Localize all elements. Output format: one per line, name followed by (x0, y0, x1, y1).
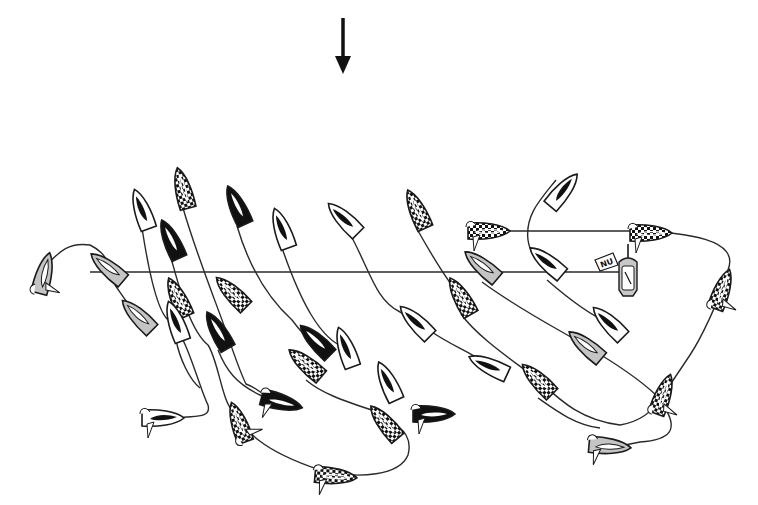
boat-track (538, 398, 600, 428)
boat-white (331, 325, 361, 370)
boat-checker (466, 221, 510, 251)
boat-white (371, 359, 404, 404)
boat-white (127, 187, 157, 232)
boat-checker (400, 187, 433, 232)
boat-checker (628, 223, 672, 253)
boat-white (588, 302, 629, 343)
flag-icon: NU (595, 253, 618, 271)
boat-white (525, 242, 568, 282)
boat-gray (29, 250, 69, 300)
boat-white (544, 169, 584, 212)
boat-checker (169, 166, 196, 211)
race-diagram: NU (0, 0, 758, 505)
boat-checker (517, 359, 558, 400)
wind-arrow-icon (335, 18, 351, 74)
boat-fleet (29, 166, 748, 498)
boat-white (267, 206, 297, 251)
boat-black (200, 308, 235, 353)
boat-gray (117, 295, 158, 336)
boat-white (395, 301, 436, 342)
boat-track (171, 258, 409, 475)
boat-track (306, 380, 378, 412)
boat-checker (705, 266, 748, 317)
boat-gray (585, 434, 631, 467)
boat-black (255, 387, 305, 427)
boat-black (220, 183, 253, 228)
boat-checker (311, 464, 357, 497)
boat-checker (222, 395, 265, 446)
boat-track (176, 340, 200, 388)
boat-gray (460, 246, 503, 286)
boat-gray (564, 326, 607, 366)
boat-white (323, 198, 364, 239)
boat-black (154, 217, 187, 262)
boat-white (140, 408, 184, 438)
boat-black (411, 404, 455, 434)
committee-boat: NU (595, 244, 637, 296)
boat-track (237, 226, 316, 341)
boat-gray (86, 248, 129, 288)
boat-checker (365, 401, 405, 444)
